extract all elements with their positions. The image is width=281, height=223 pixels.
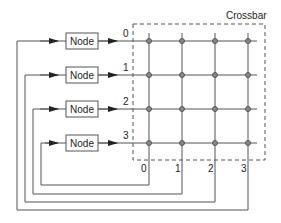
column-label-2: 2	[208, 163, 214, 174]
junction-dot	[213, 107, 218, 112]
row-label-0: 0	[123, 28, 129, 39]
row-label-3: 3	[123, 130, 129, 141]
node-label: Node	[70, 138, 94, 149]
node-label: Node	[70, 104, 94, 115]
junction-dot	[147, 39, 152, 44]
junction-dot	[180, 39, 185, 44]
crossbar-rows	[98, 41, 257, 143]
node-label: Node	[70, 36, 94, 47]
junction-dot	[246, 107, 251, 112]
row-label-2: 2	[123, 96, 129, 107]
junction-dot	[213, 39, 218, 44]
junctions	[147, 39, 251, 146]
column-label-0: 0	[141, 163, 147, 174]
crossbar-diagram: Crossbar Node	[0, 0, 281, 223]
output-arrows	[98, 41, 117, 143]
crossbar-label: Crossbar	[226, 10, 267, 21]
column-label-1: 1	[175, 163, 181, 174]
junction-dot	[246, 39, 251, 44]
junction-dot	[246, 141, 251, 146]
node-1: Node	[66, 67, 98, 83]
input-arrows	[40, 41, 66, 143]
junction-dot	[180, 141, 185, 146]
column-label-3: 3	[241, 163, 247, 174]
junction-dot	[213, 73, 218, 78]
junction-dot	[180, 107, 185, 112]
nodes: Node Node Node Node	[66, 33, 98, 151]
column-labels: 0 1 2 3	[141, 163, 247, 174]
junction-dot	[147, 141, 152, 146]
junction-dot	[147, 73, 152, 78]
row-labels: 0 1 2 3	[123, 28, 129, 141]
node-2: Node	[66, 101, 98, 117]
row-label-1: 1	[123, 62, 129, 73]
column-line-2-loop	[25, 33, 215, 202]
junction-dot	[246, 73, 251, 78]
junction-dot	[213, 141, 218, 146]
junction-dot	[147, 107, 152, 112]
node-label: Node	[70, 70, 94, 81]
column-line-1-loop	[33, 33, 182, 194]
node-0: Node	[66, 33, 98, 49]
junction-dot	[180, 73, 185, 78]
node-3: Node	[66, 135, 98, 151]
crossbar-boundary	[133, 24, 265, 160]
